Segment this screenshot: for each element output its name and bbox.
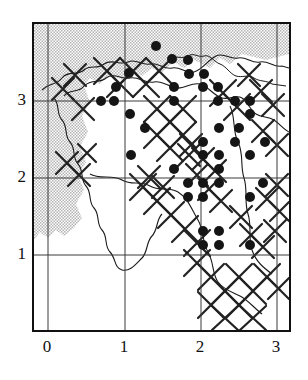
occurrence-dot: [109, 96, 119, 106]
occurrence-dot: [260, 137, 270, 147]
occurrence-dot: [183, 192, 193, 202]
plot-frame: [32, 22, 291, 332]
x-axis-tick-label: 1: [114, 337, 134, 357]
map-canvas: [34, 24, 289, 330]
occurrence-dot: [169, 82, 179, 92]
x-axis-tick-label: 0: [37, 337, 57, 357]
occurrence-dot: [199, 69, 209, 79]
occurrence-dot: [111, 82, 121, 92]
occurrence-dot: [214, 240, 224, 250]
occurrence-dot: [245, 109, 255, 119]
x-axis-tick-label: 2: [190, 337, 210, 357]
occurrence-dot: [198, 150, 208, 160]
occurrence-dot: [198, 82, 208, 92]
occurrence-dot: [183, 178, 193, 188]
occurrence-dot: [214, 123, 224, 133]
occurrence-dot: [183, 55, 193, 65]
occurrence-dot: [96, 96, 106, 106]
y-axis-tick-label: 2: [10, 167, 26, 187]
y-axis-tick-label: 1: [10, 244, 26, 264]
occurrence-dot: [213, 82, 223, 92]
occurrence-dot: [214, 226, 224, 236]
occurrence-dot: [258, 178, 268, 188]
occurrence-dot: [214, 178, 224, 188]
occurrence-dot: [245, 240, 255, 250]
occurrence-dot: [198, 226, 208, 236]
x-axis-tick-label: 3: [266, 337, 286, 357]
occurrence-dot: [124, 68, 134, 78]
occurrence-dot: [198, 137, 208, 147]
occurrence-dot: [245, 150, 255, 160]
occurrence-dot: [245, 96, 255, 106]
occurrence-dot: [167, 54, 177, 64]
occurrence-dot: [230, 96, 240, 106]
occurrence-dot: [198, 178, 208, 188]
occurrence-dot: [198, 240, 208, 250]
occurrence-dot: [126, 150, 136, 160]
y-axis-tick-label: 3: [10, 90, 26, 110]
occurrence-dot: [169, 164, 179, 174]
occurrence-dot: [169, 96, 179, 106]
occurrence-dot: [213, 96, 223, 106]
occurrence-dot: [234, 123, 244, 133]
occurrence-dot: [140, 123, 150, 133]
occurrence-dot: [151, 41, 161, 51]
occurrence-dot: [198, 192, 208, 202]
occurrence-dot: [184, 69, 194, 79]
distribution-map-figure: 0123123: [0, 0, 308, 380]
occurrence-dot: [245, 192, 255, 202]
occurrence-dot: [214, 150, 224, 160]
occurrence-dot: [214, 164, 224, 174]
occurrence-dot: [125, 109, 135, 119]
occurrence-dot: [230, 137, 240, 147]
